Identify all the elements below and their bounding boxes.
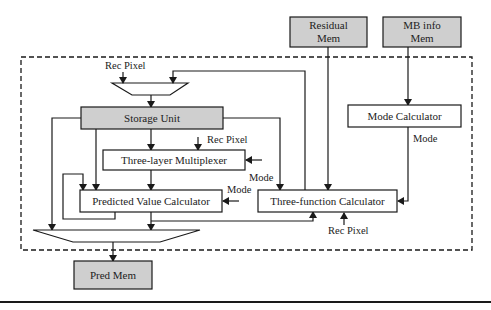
storage-unit-label: Storage Unit: [124, 112, 180, 124]
three-function-calculator-label: Three-function Calculator: [270, 195, 385, 207]
mb-info-mem-line1: MB info: [403, 19, 441, 31]
rec-pixel-tfc-label: Rec Pixel: [328, 225, 369, 236]
mode-calculator-block: Mode Calculator: [348, 105, 461, 127]
three-function-calculator-block: Three-function Calculator: [258, 190, 397, 212]
storage-unit-block: Storage Unit: [81, 107, 223, 129]
mb-info-mem-line2: Mem: [410, 32, 434, 44]
residual-mem-line1: Residual: [309, 19, 348, 31]
three-layer-multiplexer-label: Three-layer Multiplexer: [121, 154, 227, 166]
feedback-arrow-to-mux: [173, 71, 305, 190]
rec-pixel-top-label: Rec Pixel: [105, 60, 146, 71]
output-mux-trapezoid: [33, 230, 200, 242]
pred-mem-label: Pred Mem: [90, 269, 137, 281]
mb-info-mem-block: MB info Mem: [383, 17, 461, 47]
mode-pvc-label: Mode: [227, 184, 252, 195]
residual-mem-line2: Mem: [317, 32, 341, 44]
pred-mem-block: Pred Mem: [74, 261, 152, 289]
mode-mux-label: Mode: [249, 172, 274, 183]
predicted-value-calculator-block: Predicted Value Calculator: [80, 190, 222, 212]
mode-calculator-label: Mode Calculator: [367, 110, 442, 122]
rec-pixel-mux-label: Rec Pixel: [207, 134, 248, 145]
mode-calc-out-label: Mode: [413, 133, 438, 144]
block-diagram: Residual Mem MB info Mem Rec Pixel Stora…: [0, 0, 491, 310]
pvc-to-tfc-arrow: [151, 212, 313, 221]
residual-mem-block: Residual Mem: [290, 17, 367, 47]
three-layer-multiplexer-block: Three-layer Multiplexer: [103, 150, 245, 170]
predicted-value-calculator-label: Predicted Value Calculator: [92, 195, 210, 207]
modecalc-to-tfc-arrow: [398, 127, 408, 201]
input-mux-trapezoid: [112, 83, 188, 95]
